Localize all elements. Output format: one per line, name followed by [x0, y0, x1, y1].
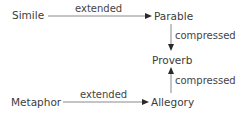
edge-label-metaphor-allegory: extended: [80, 89, 127, 101]
node-metaphor: Metaphor: [11, 96, 61, 108]
edge-label-allegory-proverb: compressed: [175, 75, 236, 87]
arrowhead-icon: [168, 67, 174, 74]
edge-label-simile-parable: extended: [75, 3, 122, 15]
arrowhead-icon: [168, 44, 174, 51]
node-simile: Simile: [12, 9, 44, 21]
node-parable: Parable: [154, 10, 193, 22]
node-allegory: Allegory: [151, 96, 194, 108]
edge-label-parable-proverb: compressed: [175, 30, 236, 42]
arrowhead-icon: [142, 99, 149, 105]
node-proverb: Proverb: [152, 54, 192, 66]
arrowhead-icon: [145, 13, 152, 19]
